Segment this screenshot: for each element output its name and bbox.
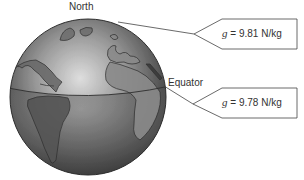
equator-label: Equator (168, 77, 203, 89)
gravity-symbol: g (222, 96, 228, 108)
equals-sign: = (230, 97, 236, 108)
equals-sign: = (230, 28, 236, 39)
gravity-unit: N/kg (261, 28, 282, 39)
earth-globe (8, 19, 170, 180)
gravity-symbol: g (222, 27, 228, 39)
north-gravity-value: g = 9.81 N/kg (222, 27, 282, 40)
gravity-number: 9.81 (239, 28, 258, 39)
gravity-unit: N/kg (261, 97, 282, 108)
equator-gravity-value: g = 9.78 N/kg (222, 96, 282, 109)
gravity-number: 9.78 (239, 97, 258, 108)
north-label: North (69, 1, 93, 13)
